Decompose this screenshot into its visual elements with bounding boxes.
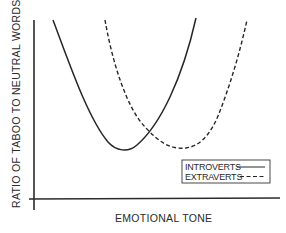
x-axis-label: EMOTIONAL TONE bbox=[115, 212, 212, 224]
chart: INTROVERTS EXTRAVERTS EMOTIONAL TONE RAT… bbox=[0, 0, 286, 233]
y-axis-label: RATIO OF TABOO TO NEUTRAL WORDS bbox=[10, 0, 22, 208]
legend: INTROVERTS EXTRAVERTS bbox=[182, 160, 270, 183]
legend-label-extraverts: EXTRAVERTS bbox=[185, 172, 242, 182]
legend-label-introverts: INTROVERTS bbox=[185, 162, 241, 172]
x-axis bbox=[29, 198, 280, 199]
introverts-curve bbox=[53, 18, 196, 150]
